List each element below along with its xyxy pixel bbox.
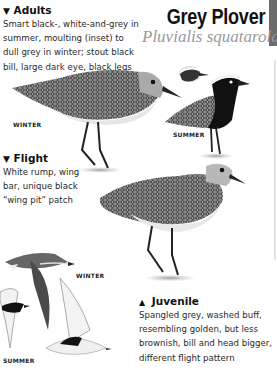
caption-adult-summer: SUMMER — [173, 131, 205, 138]
juvenile-heading: ▲ Juvenile — [139, 295, 277, 307]
flight-description: White rump, wing bar, unique black “wing… — [3, 165, 103, 208]
juvenile-bird — [100, 164, 246, 282]
triangle-down-icon: ▼ — [3, 154, 10, 164]
flight-section: ▼ Flight White rump, wing bar, unique bl… — [3, 152, 103, 208]
adult-summer-bird — [165, 76, 250, 159]
flight-white-bird — [46, 278, 112, 354]
triangle-up-icon: ▲ — [139, 298, 145, 307]
flight-summer-bird — [0, 289, 30, 349]
juvenile-description: Spangled grey, washed buff, resembling g… — [139, 308, 277, 365]
summer-inset-head — [179, 66, 209, 82]
juvenile-section: ▲ Juvenile Spangled grey, washed buff, r… — [139, 295, 277, 365]
caption-flight-winter: WINTER — [76, 272, 104, 279]
caption-adult-winter: WINTER — [13, 121, 41, 128]
flight-heading: ▼ Flight — [3, 152, 103, 164]
caption-flight-summer: SUMMER — [3, 357, 35, 364]
